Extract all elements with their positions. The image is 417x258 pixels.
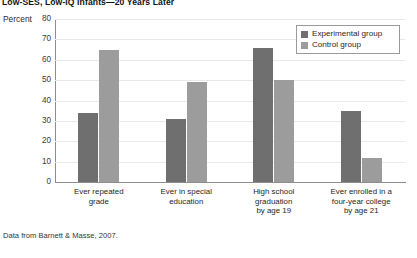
legend-swatch-control-icon <box>301 42 308 49</box>
y-axis-tick-labels: 01020304050607080 <box>0 0 51 258</box>
x-axis-category-line: by age 19 <box>230 206 318 216</box>
legend-label: Control group <box>312 41 361 49</box>
x-axis-category-line: Ever repeated <box>55 187 143 197</box>
legend-label: Experimental group <box>312 30 382 38</box>
x-axis-category-line: graduation <box>230 197 318 207</box>
x-axis-category-line: education <box>143 197 231 207</box>
bar-group <box>78 19 119 182</box>
legend-item[interactable]: Experimental group <box>301 29 395 39</box>
gridline <box>55 182 405 183</box>
y-axis-tick-label: 0 <box>46 178 51 186</box>
bar-control[interactable] <box>274 80 294 182</box>
legend-item[interactable]: Control group <box>301 40 395 50</box>
x-axis-category-label: Ever repeatedgrade <box>55 187 143 206</box>
legend-swatch-experimental-icon <box>301 31 308 38</box>
x-axis-category-line: High school <box>230 187 318 197</box>
source-note: Data from Barnett & Masse, 2007. <box>3 231 118 240</box>
x-axis-category-line: by age 21 <box>318 206 406 216</box>
x-axis-category-label: Ever enrolled in afour-year collegeby ag… <box>318 187 406 216</box>
x-axis-category-line: Ever in special <box>143 187 231 197</box>
y-axis-tick-label: 10 <box>42 158 51 166</box>
bar-experimental[interactable] <box>78 113 98 182</box>
x-axis-category-line: four-year college <box>318 197 406 207</box>
bar-experimental[interactable] <box>166 119 186 182</box>
y-axis-tick-label: 20 <box>42 137 51 145</box>
bar-experimental[interactable] <box>253 48 273 182</box>
y-axis-tick-label: 40 <box>42 97 51 105</box>
chart-legend: Experimental groupControl group <box>296 25 400 54</box>
bar-control[interactable] <box>99 50 119 182</box>
x-axis-category-label: High schoolgraduationby age 19 <box>230 187 318 216</box>
bar-control[interactable] <box>362 158 382 182</box>
y-axis-tick-label: 70 <box>42 35 51 43</box>
x-axis-category-line: grade <box>55 197 143 207</box>
bar-control[interactable] <box>187 82 207 182</box>
y-axis-tick-label: 80 <box>42 15 51 23</box>
x-axis-category-line: Ever enrolled in a <box>318 187 406 197</box>
y-axis-tick-label: 60 <box>42 56 51 64</box>
bar-experimental[interactable] <box>341 111 361 182</box>
bar-group <box>253 19 294 182</box>
y-axis-tick-label: 50 <box>42 76 51 84</box>
y-axis-tick-label: 30 <box>42 117 51 125</box>
x-axis-category-label: Ever in specialeducation <box>143 187 231 206</box>
bar-group <box>166 19 207 182</box>
